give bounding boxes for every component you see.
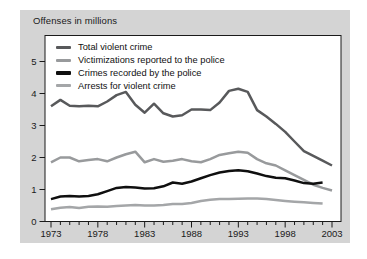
legend-label: Crimes recorded by the police (78, 68, 202, 78)
x-axis-tick-label: 1983 (134, 228, 155, 239)
x-axis-tick-label: 1993 (228, 228, 249, 239)
legend-label: Victimizations reported to the police (78, 55, 225, 65)
legend-row-crimes-recorded: Crimes recorded by the police (56, 67, 225, 80)
legend-line-swatch (56, 71, 71, 75)
legend-line-swatch (56, 46, 71, 49)
y-axis-tick-label: 5 (31, 56, 36, 67)
y-axis-tick-label: 4 (31, 88, 36, 99)
legend-row-total-violent-crime: Total violent crime (56, 41, 225, 54)
legend-row-arrests: Arrests for violent crime (56, 79, 225, 92)
screenshot-root: { "card": { "background": "#d4d4d4" }, "… (0, 0, 367, 259)
y-axis-tick-label: 2 (31, 152, 36, 163)
x-axis-tick-label: 1988 (181, 228, 202, 239)
y-axis-tick-label: 0 (31, 216, 36, 227)
x-axis-tick-label: 1978 (87, 228, 108, 239)
legend-line-swatch (56, 59, 71, 62)
x-axis-tick-label: 1973 (40, 228, 61, 239)
chart-legend: Total violent crime Victimizations repor… (56, 41, 225, 92)
chart-plot: 0123451973197819831988199319982003 (0, 0, 367, 259)
legend-line-swatch (56, 84, 71, 87)
y-axis-tick-label: 1 (31, 184, 36, 195)
y-axis-tick-label: 3 (31, 120, 36, 131)
x-axis-tick-label: 1998 (275, 228, 296, 239)
legend-label: Arrests for violent crime (78, 81, 176, 91)
legend-row-victimizations-reported: Victimizations reported to the police (56, 54, 225, 67)
x-axis-tick-label: 2003 (321, 228, 342, 239)
legend-label: Total violent crime (78, 42, 152, 52)
